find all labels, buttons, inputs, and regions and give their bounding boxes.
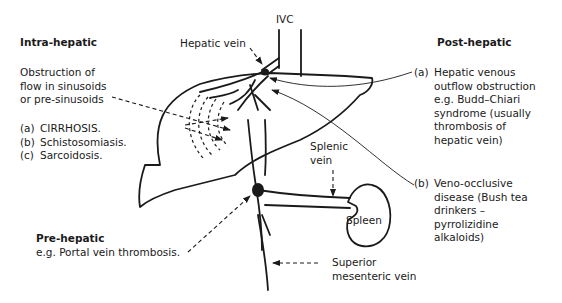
arrow-hepatic-vein — [250, 48, 262, 64]
intra-hepatic-heading: Intra-hepatic — [20, 36, 97, 50]
portal-vein-thrombus — [252, 183, 264, 197]
post-hepatic-item-a: (a) Hepatic venous outflow obstruction e… — [414, 66, 536, 147]
arrow-pre-hepatic — [188, 196, 250, 252]
post-hepatic-item-b: (b) Veno-occlusive disease (Bush tea dri… — [414, 177, 528, 245]
ivc-label: IVC — [276, 13, 294, 27]
smv-label: Superior mesenteric vein — [332, 256, 416, 283]
arrow-post-b — [272, 90, 414, 185]
post-hepatic-heading: Post-hepatic — [437, 36, 512, 50]
intra-hepatic-list: (a)CIRRHOSIS. (b)Schistosomiasis. (c)Sar… — [20, 122, 127, 163]
hepatic-vein-thrombus — [261, 69, 269, 76]
spleen-label: Spleen — [346, 214, 382, 228]
splenic-vein-label: Splenic vein — [310, 140, 348, 167]
intra-hepatic-description: Obstruction of flow in sinusoids or pre-… — [20, 66, 107, 107]
hepatic-vein-label: Hepatic vein — [180, 37, 246, 51]
pre-hepatic-block: Pre-hepatic e.g. Portal vein thrombosis. — [36, 232, 180, 259]
